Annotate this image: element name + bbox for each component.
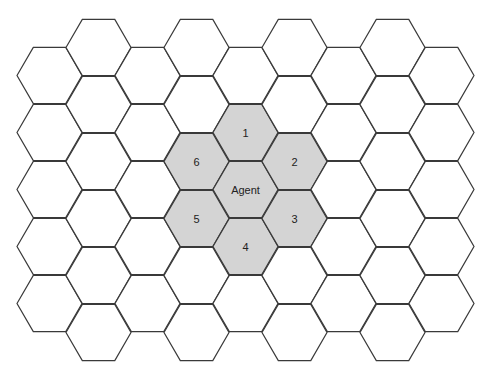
hex-label: 6 (193, 156, 199, 168)
hex-grid-diagram: 651Agent423 (0, 0, 490, 376)
hex-label: 4 (242, 241, 248, 253)
hex-label: 5 (193, 213, 199, 225)
hex-label: 2 (291, 156, 297, 168)
hex-label: 3 (291, 213, 297, 225)
hex-label: 1 (242, 127, 248, 139)
hex-label: Agent (231, 184, 260, 196)
